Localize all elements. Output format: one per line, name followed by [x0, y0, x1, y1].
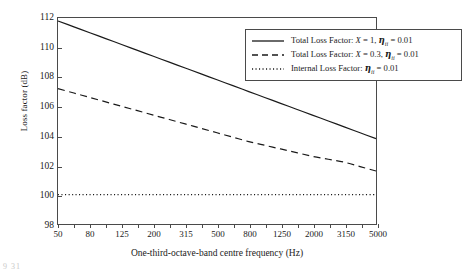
- legend-item: Total Loss Factor: X = 0.3, ηii = 0.01: [251, 48, 455, 62]
- x-tick-mark: [314, 224, 315, 228]
- legend: Total Loss Factor: X = 1, ηii = 0.01Tota…: [245, 29, 462, 81]
- x-tick-label: 125: [115, 230, 129, 239]
- series-line-dashed: [58, 89, 376, 171]
- x-tick-mark: [202, 224, 203, 228]
- x-tick-mark: [378, 224, 379, 228]
- y-tick-label: 104: [40, 132, 54, 142]
- y-tick-mark: [58, 137, 62, 138]
- x-tick-mark: [58, 224, 59, 228]
- x-tick-label: 1250: [273, 230, 291, 239]
- y-tick-label: 106: [40, 102, 54, 112]
- x-tick-mark: [106, 224, 107, 228]
- x-tick-mark: [298, 224, 299, 228]
- x-tick-label: 80: [86, 230, 95, 239]
- x-tick-label: 3150: [337, 230, 355, 239]
- legend-label: Total Loss Factor: X = 1, ηii = 0.01: [291, 36, 412, 47]
- x-tick-mark: [250, 224, 251, 228]
- x-tick-mark: [90, 224, 91, 228]
- y-tick-mark: [58, 167, 62, 168]
- legend-line-sample-solid: [251, 36, 285, 46]
- legend-line-sample-dotted: [251, 64, 285, 74]
- y-tick-label: 112: [40, 13, 54, 23]
- y-tick-mark: [58, 77, 62, 78]
- x-tick-mark: [330, 224, 331, 228]
- scan-artifact: 9 31: [3, 262, 21, 271]
- x-tick-mark: [266, 224, 267, 228]
- x-tick-label: 2000: [305, 230, 323, 239]
- y-tick-label: 100: [40, 192, 54, 202]
- plot-area: 98100102104106108110112 5080125200315500…: [57, 17, 377, 225]
- x-tick-label: 315: [179, 230, 193, 239]
- legend-item: Total Loss Factor: X = 1, ηii = 0.01: [251, 34, 455, 48]
- legend-line-sample-dashed: [251, 50, 285, 60]
- y-tick-mark: [58, 107, 62, 108]
- x-tick-mark: [282, 224, 283, 228]
- x-tick-mark: [122, 224, 123, 228]
- x-tick-label: 50: [54, 230, 63, 239]
- x-axis-title: One-third-octave-band centre frequency (…: [57, 248, 377, 258]
- x-tick-mark: [138, 224, 139, 228]
- x-tick-mark: [362, 224, 363, 228]
- x-tick-label: 5000: [369, 230, 387, 239]
- x-tick-mark: [74, 224, 75, 228]
- y-tick-mark: [58, 196, 62, 197]
- x-tick-label: 200: [147, 230, 161, 239]
- legend-label: Internal Loss Factor: ηii = 0.01: [291, 64, 399, 75]
- x-tick-label: 500: [211, 230, 225, 239]
- x-tick-mark: [170, 224, 171, 228]
- x-tick-mark: [346, 224, 347, 228]
- y-tick-label: 102: [40, 162, 54, 172]
- x-tick-mark: [218, 224, 219, 228]
- y-tick-label: 108: [40, 73, 54, 83]
- x-tick-label: 800: [243, 230, 257, 239]
- legend-item: Internal Loss Factor: ηii = 0.01: [251, 62, 455, 76]
- x-tick-mark: [234, 224, 235, 228]
- y-tick-mark: [58, 48, 62, 49]
- x-tick-mark: [154, 224, 155, 228]
- y-axis-title: Loss factor (dB): [19, 31, 29, 171]
- y-tick-label: 110: [40, 43, 54, 53]
- legend-label: Total Loss Factor: X = 0.3, ηii = 0.01: [291, 50, 419, 61]
- x-tick-mark: [186, 224, 187, 228]
